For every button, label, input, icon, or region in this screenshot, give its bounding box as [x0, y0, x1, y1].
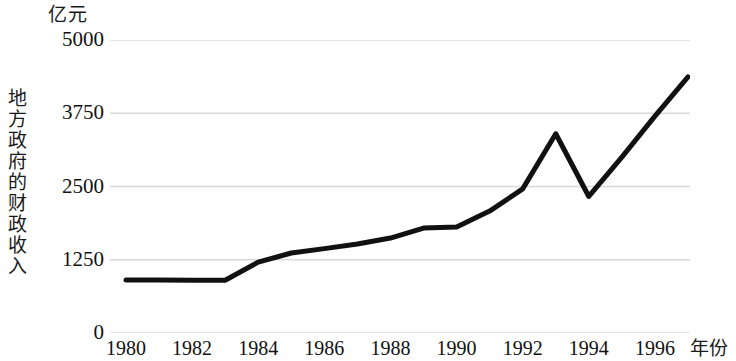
plot-area [110, 40, 690, 333]
x-axis-tick-label: 1990 [425, 336, 489, 360]
data-series-line [126, 77, 688, 280]
y-axis-title: 地方政府的财政收入 [4, 88, 30, 277]
x-axis-tick-labels: 198019821984198619881990199219941996 [0, 336, 736, 361]
x-axis-tick-label: 1992 [491, 336, 555, 360]
x-axis-tick-label: 1986 [292, 336, 356, 360]
x-axis-tick-label: 1996 [623, 336, 687, 360]
x-axis-tick-label: 1988 [358, 336, 422, 360]
y-axis-tick-labels: 01250250037505000 [36, 0, 104, 361]
y-axis-tick-label: 5000 [42, 29, 104, 50]
plot-svg [110, 40, 690, 333]
x-axis-tick-label: 1982 [160, 336, 224, 360]
x-axis-title: 年份 [690, 337, 728, 360]
x-axis-tick-label: 1994 [557, 336, 621, 360]
y-axis-tick-label: 2500 [42, 176, 104, 197]
gridlines [110, 40, 690, 333]
x-axis-tick-label: 1980 [94, 336, 158, 360]
x-axis-tick-label: 1984 [226, 336, 290, 360]
y-axis-tick-label: 3750 [42, 102, 104, 123]
y-axis-tick-label: 1250 [42, 249, 104, 270]
line-chart: 亿元 地方政府的财政收入 01250250037505000 198019821… [0, 0, 736, 361]
